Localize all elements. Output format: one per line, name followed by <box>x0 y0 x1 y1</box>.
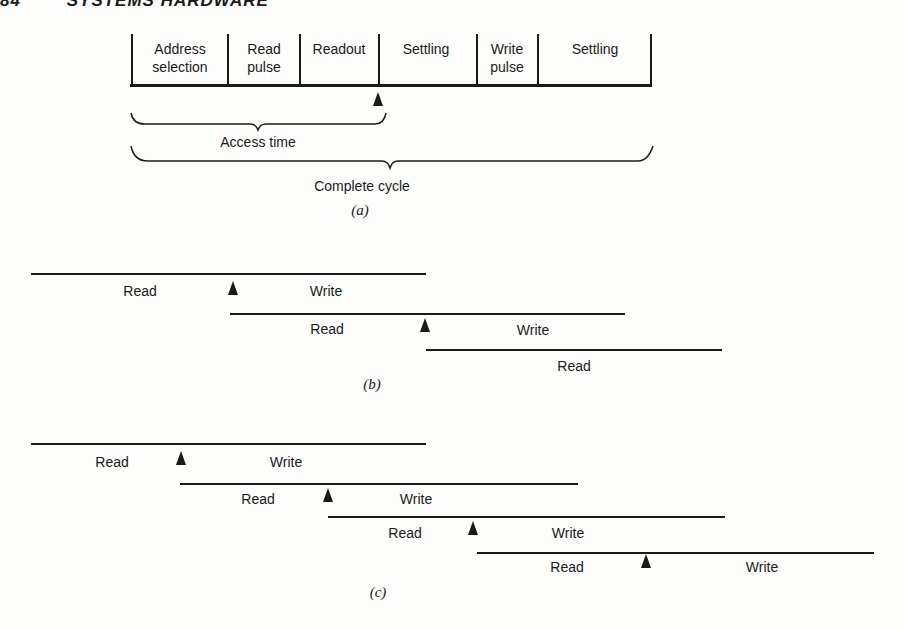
write-phase-label: Write <box>552 524 584 542</box>
cycle-timeline <box>31 273 426 275</box>
cycle-timeline <box>477 552 874 554</box>
phase-marker-arrow-icon <box>420 318 430 332</box>
cycle-timeline <box>328 516 725 518</box>
phase-marker-arrow-icon <box>228 281 238 295</box>
caption-a: (a) <box>351 202 369 219</box>
write-phase-label: Write <box>517 321 549 339</box>
phase-marker-arrow-icon <box>468 521 478 535</box>
caption-b: (b) <box>363 376 381 393</box>
phase-marker-arrow-icon <box>323 488 333 502</box>
cycle-timeline <box>31 443 426 445</box>
write-phase-label: Write <box>310 282 342 300</box>
read-phase-label: Read <box>241 490 274 508</box>
read-phase-label: Read <box>550 558 583 576</box>
write-phase-label: Write <box>400 490 432 508</box>
read-phase-label: Read <box>388 524 421 542</box>
phase-marker-arrow-icon <box>641 554 651 568</box>
caption-c: (c) <box>370 584 387 601</box>
cycle-timeline <box>230 313 625 315</box>
read-phase-label: Read <box>95 453 128 471</box>
write-phase-label: Write <box>270 453 302 471</box>
complete-cycle-label: Complete cycle <box>314 177 410 195</box>
cycle-timeline <box>426 349 722 351</box>
phase-marker-arrow-icon <box>176 451 186 465</box>
cycle-timeline <box>180 483 578 485</box>
read-phase-label: Read <box>557 357 590 375</box>
complete-cycle-brace-icon <box>0 0 904 630</box>
write-phase-label: Write <box>746 558 778 576</box>
read-phase-label: Read <box>123 282 156 300</box>
read-phase-label: Read <box>310 320 343 338</box>
